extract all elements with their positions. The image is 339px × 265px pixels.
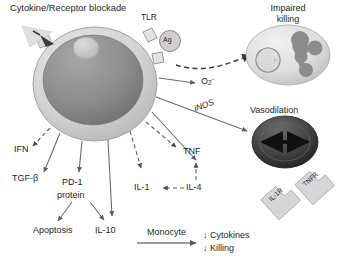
arrow-to-impaired-killing <box>176 55 250 69</box>
vasodilation-label: Vasodilation <box>250 106 298 115</box>
impaired-killing-label-line1: Impaired <box>248 4 328 13</box>
pd1-protein-label: protein <box>57 191 85 200</box>
arrow-to-pd1 <box>79 141 82 172</box>
superoxide-symbol: O <box>201 76 208 86</box>
down-arrow-icon: ↓ <box>203 243 208 253</box>
ifn-label: IFN <box>14 145 29 154</box>
apoptosis-label: Apoptosis <box>33 226 73 235</box>
down-arrow-icon: ↓ <box>203 230 208 240</box>
arrow-to-il1 <box>130 131 141 168</box>
effect-cytokines: ↓ Cytokines <box>203 231 250 240</box>
il4-label: IL-4 <box>186 183 202 192</box>
il10-label: IL-10 <box>95 226 116 235</box>
arrow-to-superoxide <box>159 78 195 83</box>
effect-killing-label: Killing <box>210 243 234 253</box>
tlr-receptor-glyph-1 <box>143 28 157 42</box>
il1r-receptor-icon <box>261 180 301 219</box>
effect-cytokines-label: Cytokines <box>210 230 250 240</box>
arrow-to-il10 <box>108 140 112 216</box>
arrow-pd1-to-apoptosis <box>58 202 72 221</box>
superoxide-superscript: - <box>212 75 214 82</box>
monocyte-label: Monocyte <box>147 228 186 237</box>
arrow-to-tnf <box>146 122 176 147</box>
arrow-pd1-to-il10 <box>90 202 104 220</box>
vasodilation-vessel <box>252 116 318 168</box>
impaired-killing-cell <box>246 25 330 85</box>
diagram-canvas: Cytokine/Receptor blockade TLR Ag Impair… <box>0 0 339 265</box>
tlr-label: TLR <box>141 13 157 22</box>
arrow-to-ifn <box>33 128 50 146</box>
tgfb-label: TGF-β <box>12 174 38 183</box>
antigen-label: Ag <box>163 36 172 43</box>
effect-killing: ↓ Killing <box>203 244 234 253</box>
tlr-receptor-glyph-2 <box>152 52 164 64</box>
superoxide-label: O2- <box>201 76 214 87</box>
il1-label: IL-1 <box>134 183 150 192</box>
arrow-to-tgfb <box>44 133 60 172</box>
pd1-label: PD-1 <box>62 178 83 187</box>
tnf-label: TNF <box>183 147 201 156</box>
page-title: Cytokine/Receptor blockade <box>10 4 126 14</box>
impaired-killing-label-line2: killing <box>248 15 328 24</box>
